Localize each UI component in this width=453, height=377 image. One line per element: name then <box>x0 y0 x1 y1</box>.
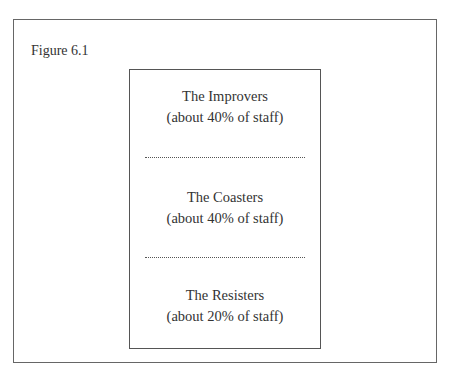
figure-label: Figure 6.1 <box>31 43 89 59</box>
segment-title: The Resisters <box>130 285 320 306</box>
segment-share: (about 40% of staff) <box>130 208 320 229</box>
segment-share: (about 20% of staff) <box>130 306 320 327</box>
segment-share: (about 40% of staff) <box>130 107 320 128</box>
dotted-divider <box>145 257 305 258</box>
segment-title: The Improvers <box>130 86 320 107</box>
segment-improvers: The Improvers (about 40% of staff) <box>130 86 320 128</box>
segment-resisters: The Resisters (about 20% of staff) <box>130 285 320 327</box>
staff-segments-box: The Improvers (about 40% of staff) The C… <box>129 69 321 349</box>
segment-coasters: The Coasters (about 40% of staff) <box>130 187 320 229</box>
segment-title: The Coasters <box>130 187 320 208</box>
dotted-divider <box>145 157 305 158</box>
